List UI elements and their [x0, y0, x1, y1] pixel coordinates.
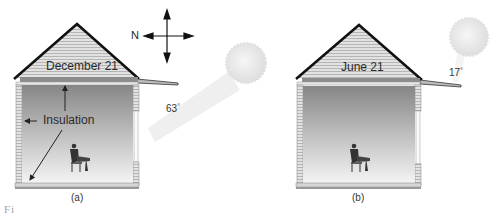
interior-b	[303, 86, 415, 183]
sun-icon-a	[226, 43, 266, 83]
panel-a-angle-value: 63	[166, 103, 177, 114]
panel-b-angle-value: 17	[449, 67, 460, 78]
panel-a-date-label: December 21	[46, 59, 118, 73]
figure-caption-fragment: Fi	[4, 203, 15, 215]
compass-icon	[144, 10, 193, 62]
window-b	[416, 111, 420, 164]
insulation-label: Insulation	[43, 113, 94, 127]
panel-b-date-label: June 21	[341, 60, 384, 74]
degree-symbol: °	[460, 67, 463, 74]
left-wall-b	[297, 85, 303, 185]
interior-a	[22, 85, 133, 183]
roof-overhang-a	[137, 79, 178, 85]
floor-b	[296, 183, 421, 187]
panel-b-house	[296, 18, 488, 189]
window-a	[134, 111, 138, 162]
panel-b-caption: (b)	[352, 192, 364, 203]
panel-a-caption: (a)	[71, 192, 83, 203]
panel-a-sun-angle: 63°	[166, 103, 180, 114]
panel-a-house	[14, 24, 266, 189]
right-wall-upper-b	[415, 85, 421, 111]
right-wall-lower-b	[415, 164, 421, 185]
diagram-canvas	[0, 0, 498, 215]
floor-a	[15, 183, 139, 187]
right-wall-upper-a	[133, 85, 139, 111]
compass-north-label: N	[131, 29, 139, 41]
right-wall-lower-a	[133, 162, 139, 185]
left-wall-a	[16, 85, 22, 185]
degree-symbol: °	[177, 103, 180, 110]
panel-b-sun-angle: 17°	[449, 67, 463, 78]
sun-icon-b	[450, 18, 488, 56]
